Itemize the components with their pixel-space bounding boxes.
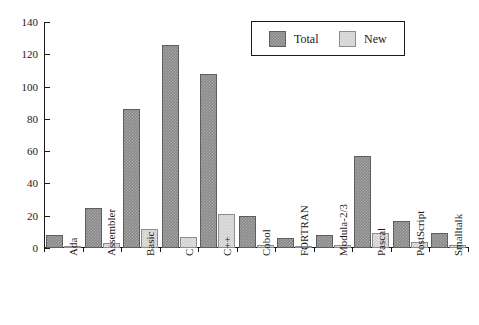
x-label-Cobol: Cobol <box>261 229 272 256</box>
x-tick-Modula-2/3 <box>314 248 315 252</box>
x-label-PostScript: PostScript <box>415 211 426 256</box>
x-tick-Ada <box>44 248 45 252</box>
bar-total-FORTRAN <box>277 238 294 248</box>
x-label-Modula-2/3: Modula-2/3 <box>338 204 349 256</box>
x-tick-C++ <box>198 248 199 252</box>
legend-swatch-new-icon <box>339 31 356 47</box>
bar-new-C <box>180 237 197 248</box>
legend-item-total: Total <box>269 30 319 48</box>
x-label-Smalltalk: Smalltalk <box>453 214 464 256</box>
legend-label-new: New <box>364 33 387 45</box>
bar-total-Cobol <box>239 216 256 248</box>
x-tick-end <box>468 248 469 252</box>
legend-item-new: New <box>339 30 387 48</box>
legend-swatch-total-icon <box>269 31 286 47</box>
x-label-C++: C++ <box>222 236 233 256</box>
bar-total-PostScript <box>393 221 410 248</box>
y-tick-label-120: 120 <box>4 49 38 60</box>
x-tick-PostScript <box>391 248 392 252</box>
y-tick-label-80: 80 <box>4 114 38 125</box>
bar-chart: 020406080100120140 AdaAssemblerBasicCC++… <box>0 0 479 325</box>
x-tick-Assembler <box>83 248 84 252</box>
bar-total-Assembler <box>85 208 102 248</box>
legend-label-total: Total <box>294 33 319 45</box>
x-label-Basic: Basic <box>145 232 156 256</box>
x-tick-FORTRAN <box>275 248 276 252</box>
bar-total-Basic <box>123 109 140 248</box>
x-label-C: C <box>184 249 195 256</box>
bar-total-C++ <box>200 74 217 248</box>
y-tick-label-140: 140 <box>4 17 38 28</box>
x-tick-Cobol <box>237 248 238 252</box>
bar-total-Ada <box>46 235 63 248</box>
y-tick-label-100: 100 <box>4 82 38 93</box>
x-tick-Smalltalk <box>429 248 430 252</box>
bar-total-Modula-2/3 <box>316 235 333 248</box>
x-tick-Pascal <box>352 248 353 252</box>
x-label-Pascal: Pascal <box>376 228 387 256</box>
y-tick-label-60: 60 <box>4 146 38 157</box>
x-tick-Basic <box>121 248 122 252</box>
chart-legend: Total New <box>251 21 405 56</box>
x-label-Assembler: Assembler <box>106 209 117 256</box>
bar-total-Smalltalk <box>431 233 448 248</box>
y-tick-label-20: 20 <box>4 211 38 222</box>
bar-total-C <box>162 45 179 248</box>
x-tick-C <box>160 248 161 252</box>
y-tick-label-40: 40 <box>4 178 38 189</box>
bar-total-Pascal <box>354 156 371 248</box>
y-tick-label-0: 0 <box>4 243 38 254</box>
x-label-FORTRAN: FORTRAN <box>299 205 310 256</box>
x-label-Ada: Ada <box>68 238 79 256</box>
